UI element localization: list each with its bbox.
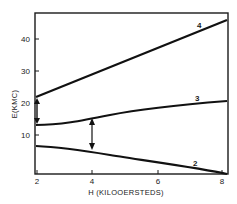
curve-2 bbox=[36, 146, 227, 174]
x-tick-8: 8 bbox=[220, 177, 225, 186]
x-axis-title: H (KILOOERSTEDS) bbox=[88, 188, 164, 197]
y-tick-20: 20 bbox=[21, 99, 30, 108]
curve-label-3: 3 bbox=[195, 94, 200, 103]
chart-figure: 40 30 20 10 E(KMC) 2 4 6 8 H (KILOOERSTE… bbox=[0, 0, 237, 204]
curve-3 bbox=[36, 101, 227, 125]
x-tick-2: 2 bbox=[35, 177, 40, 186]
x-tick-6: 6 bbox=[156, 177, 161, 186]
y-tick-40: 40 bbox=[21, 35, 30, 44]
y-tick-10: 10 bbox=[21, 131, 30, 140]
curve-label-2: 2 bbox=[193, 159, 198, 168]
y-tick-30: 30 bbox=[21, 67, 30, 76]
curve-label-4: 4 bbox=[197, 21, 202, 30]
curve-4 bbox=[36, 20, 227, 97]
y-axis-title: E(KMC) bbox=[10, 90, 19, 119]
double-arrow-icon bbox=[89, 118, 95, 150]
x-tick-4: 4 bbox=[90, 177, 95, 186]
